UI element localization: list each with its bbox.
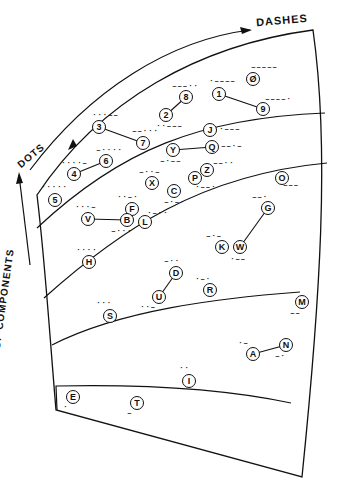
morse-code-F: ··–· (117, 193, 138, 201)
morse-code-L: ·–·· (147, 209, 168, 217)
dashes-arrowhead-icon (240, 27, 252, 34)
morse-code-D: –·· (164, 257, 180, 265)
dots-arrowhead-icon (68, 139, 77, 150)
node-S: S (103, 309, 117, 323)
node-I: I (182, 374, 196, 388)
morse-code-6: –···· (96, 146, 123, 154)
morse-code-3: ···–– (92, 111, 119, 119)
morse-code-U: ··– (140, 303, 156, 311)
morse-code-J: ·––– (219, 125, 240, 133)
morse-code-O: ––– (283, 181, 299, 189)
node-Y: Y (166, 143, 180, 157)
morse-code-G: ––· (252, 193, 268, 201)
morse-code-8: –––·· (172, 82, 199, 90)
node-Z: Z (200, 163, 214, 177)
morse-code-Q: ––·– (221, 142, 242, 150)
components-arrowhead-icon (16, 172, 23, 184)
morse-code-N: –· (275, 352, 286, 360)
morse-code-5: ····· (41, 183, 68, 191)
morse-code-E: · (63, 403, 68, 411)
morse-code-7: ––··· (132, 127, 159, 135)
node-6: 6 (99, 154, 113, 168)
band-line-1 (56, 386, 291, 410)
node-E: E (66, 390, 80, 404)
morse-code-B: –··· (111, 227, 132, 235)
morse-code-Z: ––·· (213, 159, 234, 167)
components-arrow (19, 175, 30, 265)
node-9: 9 (256, 102, 270, 116)
morse-code-2: ··––– (156, 122, 183, 130)
morse-code-P: ·––· (195, 183, 216, 191)
morse-code-K: –·– (206, 232, 222, 240)
morse-code-1: ·–––– (209, 77, 236, 85)
node-3: 3 (92, 120, 106, 134)
node-5: 5 (48, 193, 62, 207)
node-N: N (279, 338, 293, 352)
node-V: V (81, 212, 95, 226)
node-W: W (233, 240, 247, 254)
node-D: D (169, 266, 183, 280)
morse-code-4: ····– (61, 159, 88, 167)
morse-code-A: ·– (238, 339, 249, 347)
morse-code-Y: –·–– (160, 157, 181, 165)
morse-code-V: ···– (75, 203, 96, 211)
node-Q: Q (205, 140, 219, 154)
node-T: T (130, 396, 144, 410)
node-X: X (145, 176, 159, 190)
morse-code-X: –··– (139, 168, 160, 176)
node-G: G (261, 201, 275, 215)
node-4: 4 (67, 167, 81, 181)
node-Ø: Ø (246, 72, 260, 86)
node-C: C (167, 184, 181, 198)
node-1: 1 (212, 87, 226, 101)
morse-code-R: ·–· (195, 275, 211, 283)
morse-code-S: ··· (96, 299, 112, 307)
morse-code-M: –– (290, 309, 301, 317)
node-H: H (82, 255, 96, 269)
morse-code-T: – (127, 409, 132, 417)
node-M: M (295, 295, 309, 309)
morse-code-W: ·–– (230, 255, 246, 263)
diagram-frame (0, 0, 343, 489)
node-J: J (203, 123, 217, 137)
node-B: B (120, 213, 134, 227)
morse-code-I: ·· (179, 364, 190, 372)
band-line-2 (52, 292, 300, 345)
node-7: 7 (136, 136, 150, 150)
node-2: 2 (159, 108, 173, 122)
morse-code-Ø: ––––– (251, 63, 278, 71)
node-R: R (203, 283, 217, 297)
node-8: 8 (179, 90, 193, 104)
morse-code-H: ···· (76, 246, 97, 254)
morse-code-C: –·–· (164, 198, 185, 206)
morse-code-9: ––––· (265, 95, 292, 103)
node-K: K (215, 240, 229, 254)
node-L: L (138, 215, 152, 229)
node-A: A (246, 347, 260, 361)
